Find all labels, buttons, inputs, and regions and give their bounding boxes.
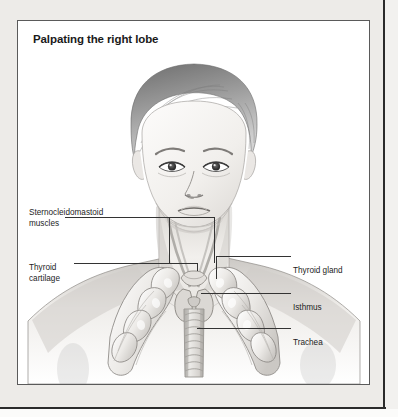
label-sternocleidomastoid-muscles: Sternocleidomastoidmuscles — [29, 208, 103, 229]
page-margin-right — [385, 0, 398, 417]
label-sternocleidomastoid-line1: Sternocleidomastoid — [29, 208, 103, 217]
label-sternocleidomastoid-line2: muscles — [29, 219, 59, 228]
label-thyroid-cartilage-line1: Thyroid — [29, 263, 56, 272]
thyroid-palpation-illustration — [18, 21, 369, 384]
label-thyroid-cartilage-line2: cartilage — [29, 274, 60, 283]
figure-page: Palpating the right lobe Sternocleidomas… — [0, 0, 398, 417]
page-margin-bottom — [0, 409, 398, 417]
label-thyroid-gland: Thyroid gland — [293, 266, 343, 277]
label-trachea: Trachea — [293, 338, 323, 349]
label-isthmus: Isthmus — [293, 303, 322, 314]
label-thyroid-cartilage: Thyroidcartilage — [29, 263, 60, 284]
figure-panel: Palpating the right lobe Sternocleidomas… — [17, 20, 370, 385]
figure-title: Palpating the right lobe — [33, 33, 158, 45]
